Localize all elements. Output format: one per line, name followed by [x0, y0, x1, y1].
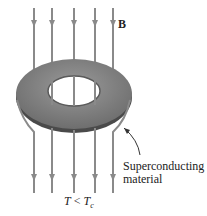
field-label-B: B	[118, 17, 126, 32]
temp-Tc-sub: c	[90, 201, 94, 210]
temperature-condition: T < Tc	[64, 194, 94, 210]
material-label: Superconducting material	[123, 160, 204, 186]
temp-T: T	[64, 194, 71, 208]
material-label-line2: material	[123, 173, 204, 186]
temp-relation: <	[71, 194, 84, 208]
